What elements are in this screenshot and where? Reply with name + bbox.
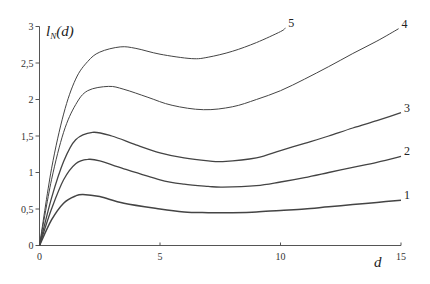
- x-tick-label: 10: [276, 251, 286, 262]
- curve-label-1: 1: [404, 188, 410, 202]
- y-axis-title: lN(d): [46, 23, 74, 41]
- curve-labels: 12345: [288, 16, 410, 202]
- line-chart: 00,511,522,53051015 12345 lN(d) d: [0, 0, 430, 284]
- y-tick-label: 0,5: [21, 204, 34, 215]
- y-tick-label: 0: [29, 240, 34, 251]
- curve-1: [40, 194, 402, 245]
- curves: [40, 28, 402, 246]
- axes: 00,511,522,53051015: [21, 21, 406, 262]
- x-tick-label: 5: [158, 251, 163, 262]
- curve-label-5: 5: [288, 16, 294, 30]
- curve-label-4: 4: [402, 17, 408, 31]
- x-tick-label: 15: [396, 251, 406, 262]
- x-axis-title: d: [374, 254, 382, 270]
- y-tick-label: 1: [29, 167, 34, 178]
- y-tick-label: 2: [29, 94, 34, 105]
- y-tick-label: 2,5: [21, 58, 34, 69]
- y-tick-label: 1,5: [21, 131, 34, 142]
- y-tick-label: 3: [29, 21, 34, 32]
- curve-3: [40, 113, 402, 246]
- curve-label-3: 3: [404, 101, 410, 115]
- x-tick-label: 0: [37, 251, 42, 262]
- curve-label-2: 2: [404, 144, 410, 158]
- curve-2: [40, 156, 402, 245]
